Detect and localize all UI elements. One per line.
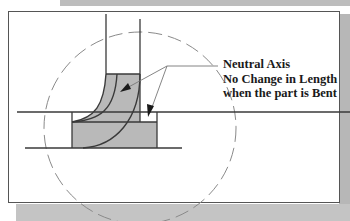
label-line-2: No Change in Length <box>223 72 337 87</box>
arrowhead-icon <box>147 104 154 117</box>
label-line-3: when the part is Bent <box>223 86 337 101</box>
neutral-axis-label: Neutral Axis No Change in Length when th… <box>223 57 337 101</box>
bend-diagram <box>0 0 350 221</box>
leader-line-2 <box>151 66 167 110</box>
label-line-1: Neutral Axis <box>223 57 337 72</box>
